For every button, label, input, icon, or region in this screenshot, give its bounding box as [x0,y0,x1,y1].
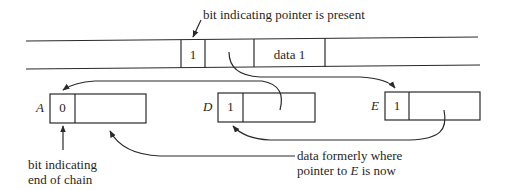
end-bit-label-line2: end of chain [28,172,92,187]
end-bit-label-line1: bit indicating [28,157,97,172]
record-a-name: A [36,100,44,115]
top-record-data: data 1 [254,47,325,62]
pointer-bit-label: bit indicating pointer is present [203,7,365,22]
record-e-bit: 1 [385,98,409,113]
record-a-bit: 0 [50,100,75,115]
storage-band [26,37,480,69]
moved-data-prefix: pointer to [297,163,350,178]
record-d-name: D [203,99,212,114]
record-d-bit: 1 [218,99,243,114]
band-bottom-line [26,65,480,69]
pointer-bit-arrow [193,20,201,37]
record-e-name: E [371,98,379,113]
moved-data-label-line2: pointer to E is now [297,163,396,178]
band-top-line [26,37,478,41]
e-to-d-arrow [233,110,445,140]
d-to-a-arrow [63,81,281,110]
moved-data-label-line1: data formerly where [297,148,402,163]
moved-data-arrow [110,131,295,156]
top-record-bit: 1 [181,47,205,62]
moved-data-suffix: is now [358,163,396,178]
